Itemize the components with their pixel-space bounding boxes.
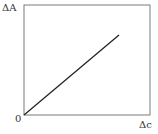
data-line: [24, 35, 119, 115]
origin-label: 0: [15, 114, 21, 124]
chart-canvas: [0, 0, 158, 134]
x-axis-label: Δc: [139, 120, 152, 130]
y-axis-label: ΔA: [2, 3, 16, 13]
